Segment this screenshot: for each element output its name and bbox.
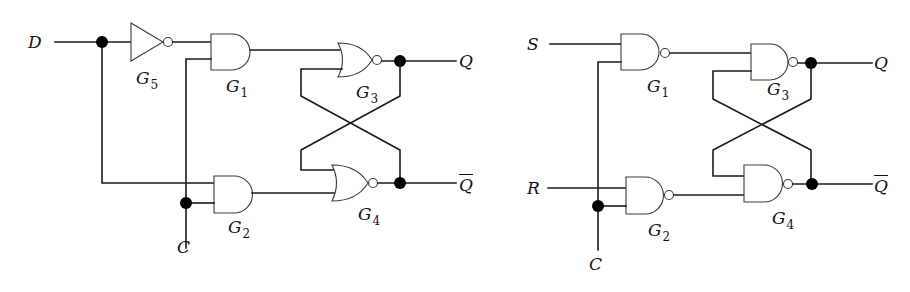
g2-label: G2 bbox=[228, 219, 250, 240]
g4-label: G4 bbox=[358, 206, 380, 227]
d-input-label: D bbox=[28, 34, 42, 51]
g2-and-gate bbox=[214, 176, 253, 213]
g1-and-gate bbox=[211, 34, 250, 70]
q-output-label: Q bbox=[459, 53, 473, 70]
g3-nor-gate bbox=[338, 43, 372, 77]
g3-to-g4-feedback-wire bbox=[301, 61, 400, 170]
circuit-drawing bbox=[0, 0, 910, 292]
g3-nand-gate bbox=[751, 44, 788, 80]
g1-label: G1 bbox=[226, 78, 248, 99]
g4-nor-gate bbox=[332, 165, 368, 201]
s-input-label: S bbox=[527, 36, 539, 53]
g3-inversion-bubble bbox=[789, 58, 798, 67]
g3-inversion-bubble bbox=[373, 56, 382, 65]
c-junction-dot bbox=[592, 200, 604, 212]
c-input-label: C bbox=[177, 239, 190, 256]
q-bar-output-label: Q bbox=[459, 177, 473, 194]
g4-to-g3-feedback-wire bbox=[301, 69, 400, 183]
g4-label: G4 bbox=[772, 210, 794, 231]
g5-not-gate bbox=[131, 23, 163, 61]
q-bar-junction-dot bbox=[394, 177, 406, 189]
c-to-g1-wire bbox=[186, 59, 211, 248]
g1-label: G1 bbox=[647, 78, 669, 99]
g4-inversion-bubble bbox=[369, 179, 378, 188]
g5-label: G5 bbox=[136, 70, 158, 91]
g1-inversion-bubble bbox=[661, 49, 670, 58]
d-junction-dot bbox=[96, 36, 108, 48]
g3-label: G3 bbox=[356, 84, 378, 105]
g1-nand-gate bbox=[621, 34, 659, 70]
q-bar-junction-dot bbox=[806, 178, 818, 190]
right-circuit bbox=[548, 34, 872, 250]
g2-inversion-bubble bbox=[665, 191, 674, 200]
d-to-g2-wire bbox=[102, 42, 214, 183]
q-bar-output-label: Q bbox=[874, 178, 888, 195]
c-input-label: C bbox=[589, 256, 602, 273]
g5-inversion-bubble bbox=[164, 38, 173, 47]
latch-diagrams: D C Q Q G5 G1 G2 G3 G4 S R C Q Q G1 G2 G… bbox=[0, 0, 910, 292]
g4-inversion-bubble bbox=[784, 180, 793, 189]
g3-label: G3 bbox=[767, 81, 789, 102]
c-junction-dot bbox=[180, 197, 192, 209]
g2-label: G2 bbox=[648, 222, 670, 243]
c-to-g1-wire bbox=[598, 62, 621, 250]
g4-nand-gate bbox=[744, 165, 783, 202]
g2-nand-gate bbox=[626, 177, 664, 214]
q-output-label: Q bbox=[874, 55, 888, 72]
left-circuit bbox=[55, 23, 456, 248]
r-input-label: R bbox=[527, 180, 540, 197]
